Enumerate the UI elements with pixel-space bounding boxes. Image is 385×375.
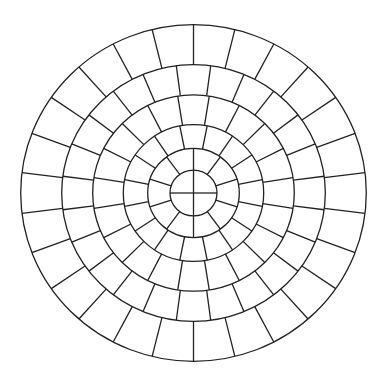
circular-paving-diagram — [0, 0, 385, 375]
diagram-svg — [0, 0, 385, 375]
background — [0, 0, 385, 375]
